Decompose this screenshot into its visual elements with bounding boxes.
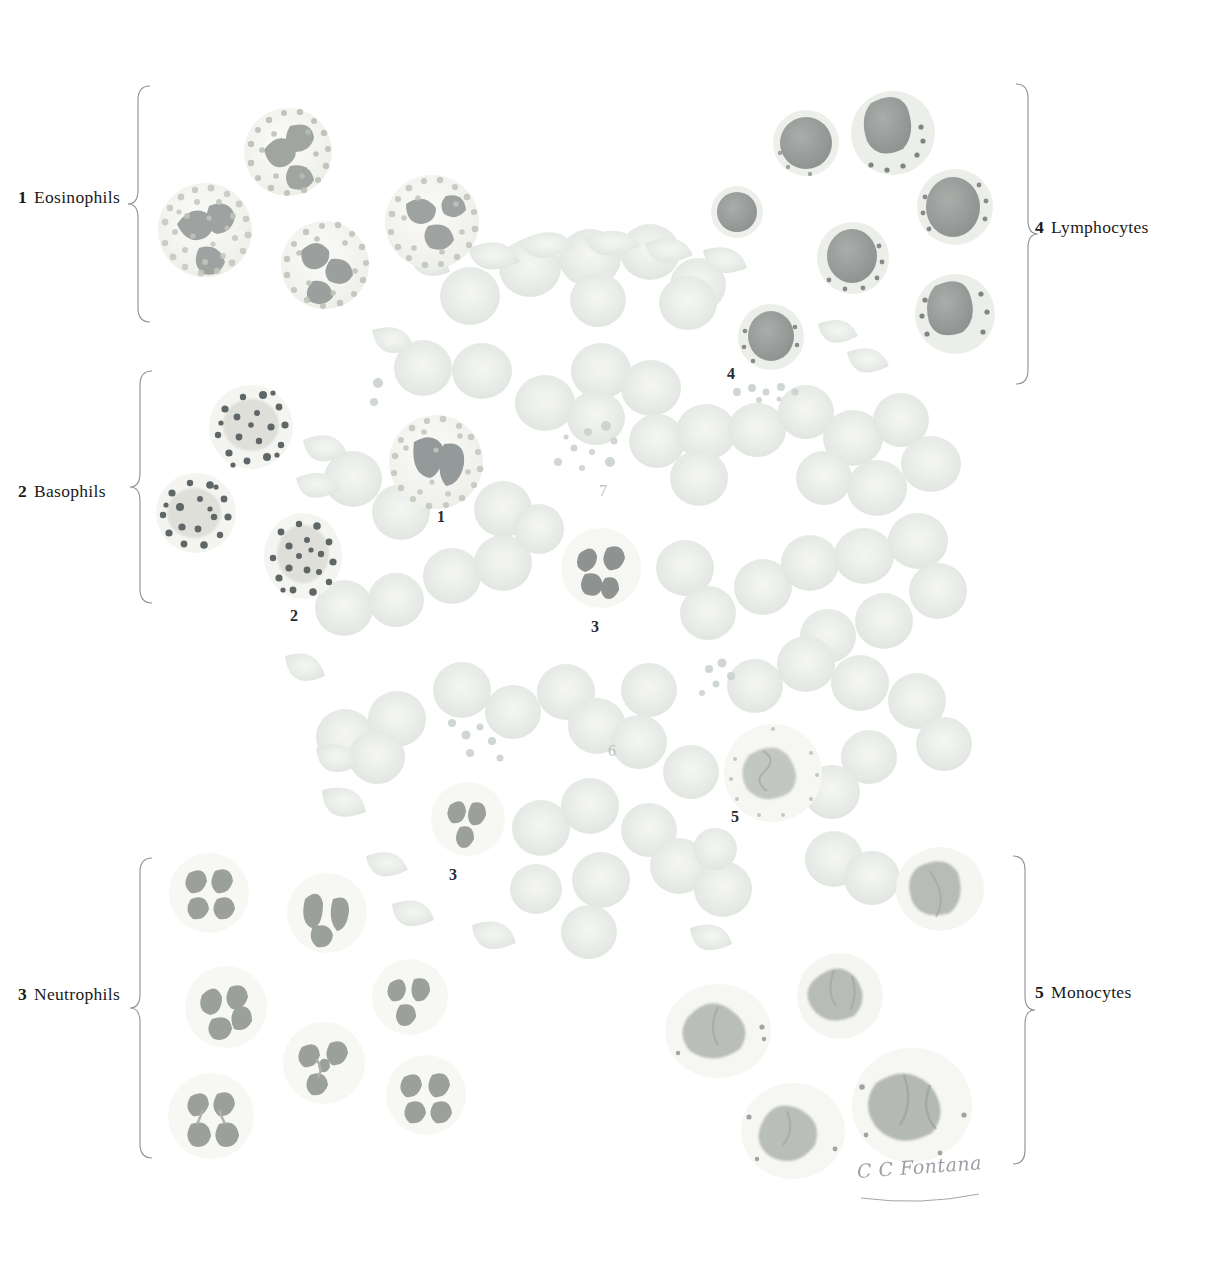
legend-label: Basophils	[34, 481, 106, 501]
callout-2: 2	[290, 607, 298, 625]
callout-7: 7	[599, 482, 607, 500]
legend-item-eosinophils: 1Eosinophils	[18, 187, 120, 208]
legend-label: Lymphocytes	[1051, 217, 1149, 237]
signature-flourish	[855, 1158, 1025, 1208]
legend-number: 3	[18, 984, 27, 1004]
legend-item-neutrophils: 3Neutrophils	[18, 984, 120, 1005]
legend-number: 4	[1035, 217, 1044, 237]
legend-label: Eosinophils	[34, 187, 120, 207]
callout-5: 5	[731, 808, 739, 826]
legend-number: 1	[18, 187, 27, 207]
legend-number: 2	[18, 481, 27, 501]
callout-3a: 3	[591, 618, 599, 636]
legend-item-monocytes: 5Monocytes	[1035, 982, 1132, 1003]
callout-3b: 3	[449, 866, 457, 884]
artist-signature: C C Fontana	[855, 1158, 1025, 1208]
legend-label: Neutrophils	[34, 984, 120, 1004]
callout-4: 4	[727, 365, 735, 383]
callout-6: 6	[608, 742, 616, 760]
blood-cell-plate: 1Eosinophils 2Basophils 3Neutrophils 4Ly…	[0, 0, 1210, 1272]
legend-item-lymphocytes: 4Lymphocytes	[1035, 217, 1149, 238]
callout-1: 1	[437, 508, 445, 526]
legend-number: 5	[1035, 982, 1044, 1002]
legend-label: Monocytes	[1051, 982, 1131, 1002]
legend-item-basophils: 2Basophils	[18, 481, 106, 502]
